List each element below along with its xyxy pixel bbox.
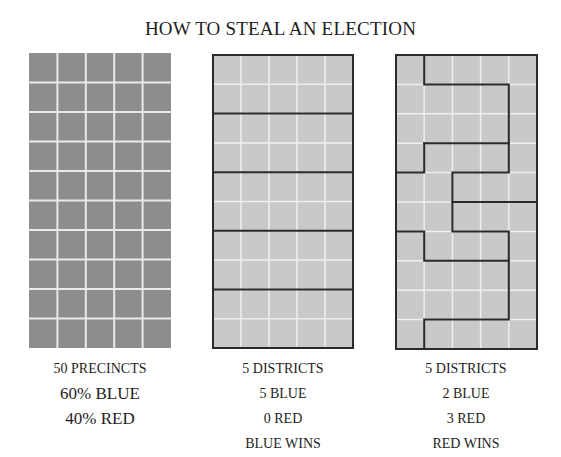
fair-districts-caption: 5 DISTRICTS 5 BLUE 0 RED BLUE WINS [193, 356, 373, 456]
fair-gridlines [213, 55, 353, 348]
caption-line: 0 RED [193, 406, 373, 431]
caption-line: 5 DISTRICTS [376, 356, 556, 381]
caption-line: 3 RED [376, 406, 556, 431]
caption-line: 40% RED [10, 406, 190, 431]
precinct-gridlines [29, 53, 171, 348]
caption-line: 60% BLUE [10, 381, 190, 406]
precincts-caption: 50 PRECINCTS 60% BLUE 40% RED [10, 356, 190, 431]
caption-line: BLUE WINS [193, 431, 373, 456]
caption-line: 5 BLUE [193, 381, 373, 406]
caption-line: 5 DISTRICTS [193, 356, 373, 381]
gerrymandered-districts-caption: 5 DISTRICTS 2 BLUE 3 RED RED WINS [376, 356, 556, 456]
caption-line: RED WINS [376, 431, 556, 456]
caption-line: 50 PRECINCTS [10, 356, 190, 381]
caption-line: 2 BLUE [376, 381, 556, 406]
